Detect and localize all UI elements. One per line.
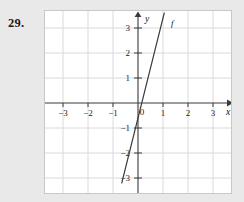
y-tick-label: 3 bbox=[126, 23, 131, 33]
x-axis-label: x bbox=[225, 107, 231, 117]
x-tick-label: −1 bbox=[108, 108, 118, 118]
problem-number: 29. bbox=[8, 16, 24, 31]
graph-panel: −3 −2 −1 1 2 3 3 2 1 −1 −2 −3 0 y x bbox=[44, 10, 232, 194]
x-tick-labels: −3 −2 −1 1 2 3 bbox=[58, 108, 216, 118]
y-axis-label: y bbox=[144, 14, 150, 24]
function-line-f bbox=[122, 13, 165, 183]
function-label-f: f bbox=[171, 18, 175, 28]
x-tick-label: −2 bbox=[83, 108, 93, 118]
coordinate-plane-chart: −3 −2 −1 1 2 3 3 2 1 −1 −2 −3 0 y x bbox=[45, 11, 232, 194]
y-tick-label: 1 bbox=[126, 73, 131, 83]
y-tick-label: −1 bbox=[120, 123, 130, 133]
x-tick-label: 1 bbox=[161, 108, 166, 118]
x-tick-label: 3 bbox=[211, 108, 216, 118]
y-tick-label: 2 bbox=[126, 48, 131, 58]
x-tick-label: −3 bbox=[58, 108, 68, 118]
x-tick-label: 2 bbox=[186, 108, 191, 118]
figure-root: 29. bbox=[0, 0, 244, 202]
